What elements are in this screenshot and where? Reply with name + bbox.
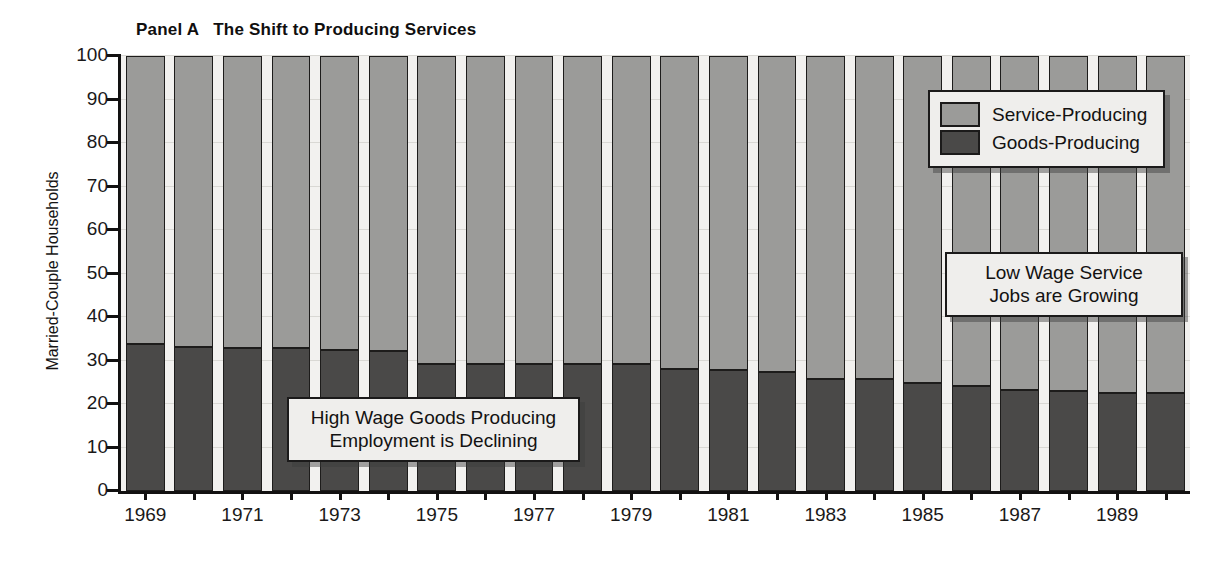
y-axis-tick-label: 30 — [50, 349, 108, 371]
bar-1984 — [855, 56, 894, 491]
y-axis-tick — [107, 228, 121, 231]
x-axis-tick-label: 1973 — [300, 504, 380, 526]
x-axis-tick-label: 1977 — [494, 504, 574, 526]
bar-segment-goods — [855, 379, 894, 491]
bar-segment-service — [272, 56, 311, 348]
y-axis-tick-label: 60 — [50, 218, 108, 240]
x-axis-tick — [387, 491, 390, 500]
x-axis-tick-label: 1981 — [688, 504, 768, 526]
annotation-goods-line2: Employment is Declining — [301, 429, 566, 452]
x-axis-tick-label: 1975 — [397, 504, 477, 526]
x-axis-tick — [776, 491, 779, 500]
x-axis-tick-label: 1987 — [980, 504, 1060, 526]
bar-segment-goods — [1049, 391, 1088, 491]
bar-segment-goods — [1000, 390, 1039, 491]
y-axis-tick-label: 70 — [50, 175, 108, 197]
x-axis-tick — [582, 491, 585, 500]
annotation-service-line1: Low Wage Service — [959, 261, 1169, 284]
bar-segment-service — [369, 56, 408, 351]
x-axis-tick — [193, 491, 196, 500]
bar-segment-service — [126, 56, 165, 344]
x-axis-tick-label: 1989 — [1077, 504, 1157, 526]
bar-segment-goods — [126, 344, 165, 491]
bar-segment-service — [320, 56, 359, 350]
bar-segment-service — [417, 56, 456, 364]
x-axis-tick-label: 1983 — [786, 504, 866, 526]
chart-legend: Service-Producing Goods-Producing — [928, 90, 1165, 168]
x-axis-tick — [1165, 491, 1168, 500]
bar-1980 — [660, 56, 699, 491]
bar-segment-service — [612, 56, 651, 364]
y-axis-tick — [107, 402, 121, 405]
y-axis-tick — [107, 315, 121, 318]
annotation-service-jobs: Low Wage Service Jobs are Growing — [945, 252, 1183, 317]
x-axis-tick-label: 1971 — [202, 504, 282, 526]
chart-figure: Panel A The Shift to Producing Services … — [0, 0, 1209, 567]
x-axis-tick-label: 1969 — [105, 504, 185, 526]
bar-segment-goods — [952, 386, 991, 491]
bar-1970 — [174, 56, 213, 491]
y-axis-tick-label: 50 — [50, 262, 108, 284]
x-axis-tick — [339, 491, 342, 500]
x-axis-tick — [727, 491, 730, 500]
x-axis-tick — [1068, 491, 1071, 500]
y-axis-tick — [107, 98, 121, 101]
legend-item-goods: Goods-Producing — [940, 130, 1147, 155]
bar-segment-service — [223, 56, 262, 348]
bar-segment-goods — [174, 347, 213, 491]
y-axis-tick-label: 100 — [50, 44, 108, 66]
x-axis-tick-label: 1979 — [591, 504, 671, 526]
legend-label-service: Service-Producing — [992, 104, 1147, 126]
x-axis-tick — [679, 491, 682, 500]
y-axis-tick-label: 80 — [50, 131, 108, 153]
bar-segment-goods — [612, 364, 651, 491]
x-axis-tick — [290, 491, 293, 500]
legend-label-goods: Goods-Producing — [992, 132, 1140, 154]
bar-segment-service — [709, 56, 748, 370]
y-axis-tick — [107, 272, 121, 275]
x-axis-tick — [1116, 491, 1119, 500]
x-axis-tick — [241, 491, 244, 500]
y-axis-tick-label: 0 — [50, 479, 108, 501]
bar-segment-service — [855, 56, 894, 379]
y-axis-tick — [107, 446, 121, 449]
bar-1983 — [806, 56, 845, 491]
x-axis-tick — [144, 491, 147, 500]
x-axis-tick — [484, 491, 487, 500]
y-axis-tick-label: 20 — [50, 392, 108, 414]
bar-segment-service — [758, 56, 797, 372]
bar-1979 — [612, 56, 651, 491]
bar-segment-service — [515, 56, 554, 364]
bar-1971 — [223, 56, 262, 491]
bar-segment-service — [806, 56, 845, 379]
bar-segment-service — [563, 56, 602, 364]
bar-1981 — [709, 56, 748, 491]
bar-segment-goods — [223, 348, 262, 491]
bar-segment-service — [466, 56, 505, 364]
bar-segment-service — [174, 56, 213, 347]
bar-segment-service — [660, 56, 699, 369]
y-axis-tick — [107, 141, 121, 144]
x-axis-tick — [630, 491, 633, 500]
bar-segment-goods — [660, 369, 699, 491]
legend-swatch-goods — [940, 130, 980, 155]
y-axis-tick-label: 90 — [50, 88, 108, 110]
annotation-goods-producing: High Wage Goods Producing Employment is … — [287, 397, 580, 462]
x-axis-tick — [922, 491, 925, 500]
y-axis-tick — [107, 359, 121, 362]
bar-1969 — [126, 56, 165, 491]
y-axis-tick-label: 10 — [50, 436, 108, 458]
legend-item-service: Service-Producing — [940, 102, 1147, 127]
y-axis-tick-label: 40 — [50, 305, 108, 327]
x-axis-tick — [873, 491, 876, 500]
x-axis-tick — [436, 491, 439, 500]
bar-segment-goods — [806, 379, 845, 491]
bar-segment-goods — [709, 370, 748, 491]
x-axis-tick — [825, 491, 828, 500]
annotation-service-line2: Jobs are Growing — [959, 284, 1169, 307]
legend-swatch-service — [940, 102, 980, 127]
bar-segment-goods — [1098, 393, 1137, 491]
x-axis-tick — [970, 491, 973, 500]
x-axis-tick-label: 1985 — [883, 504, 963, 526]
bar-segment-goods — [758, 372, 797, 491]
